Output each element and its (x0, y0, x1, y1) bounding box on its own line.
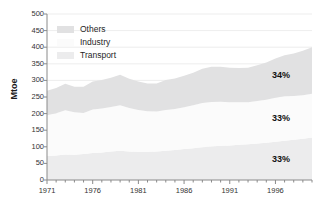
legend-swatch-icon (57, 39, 74, 46)
x-tick-label: 1986 (176, 187, 193, 195)
x-tick-label: 1971 (39, 187, 56, 195)
legend-label: Others (80, 25, 106, 34)
x-tick-label: 1981 (130, 187, 147, 195)
legend-swatch-icon (57, 26, 74, 33)
legend-label: Transport (80, 51, 116, 60)
x-tick-label: 1976 (84, 187, 101, 195)
x-axis-tick-labels: 197119761981198619911996 (0, 0, 320, 208)
legend-item-industry[interactable]: Industry (57, 36, 116, 48)
legend-item-transport[interactable]: Transport (57, 49, 116, 61)
legend-label: Industry (80, 38, 110, 47)
x-tick-label: 1996 (267, 187, 284, 195)
others-share: 34% (272, 71, 290, 80)
transport-share: 33% (272, 155, 290, 164)
x-tick-label: 1991 (221, 187, 238, 195)
legend-swatch-icon (57, 52, 74, 59)
stacked-area-chart: Mtoe 050100150200250300350400450500 1971… (0, 0, 320, 208)
industry-share: 33% (272, 114, 290, 123)
legend-item-others[interactable]: Others (57, 23, 116, 35)
chart-legend: OthersIndustryTransport (57, 23, 116, 61)
